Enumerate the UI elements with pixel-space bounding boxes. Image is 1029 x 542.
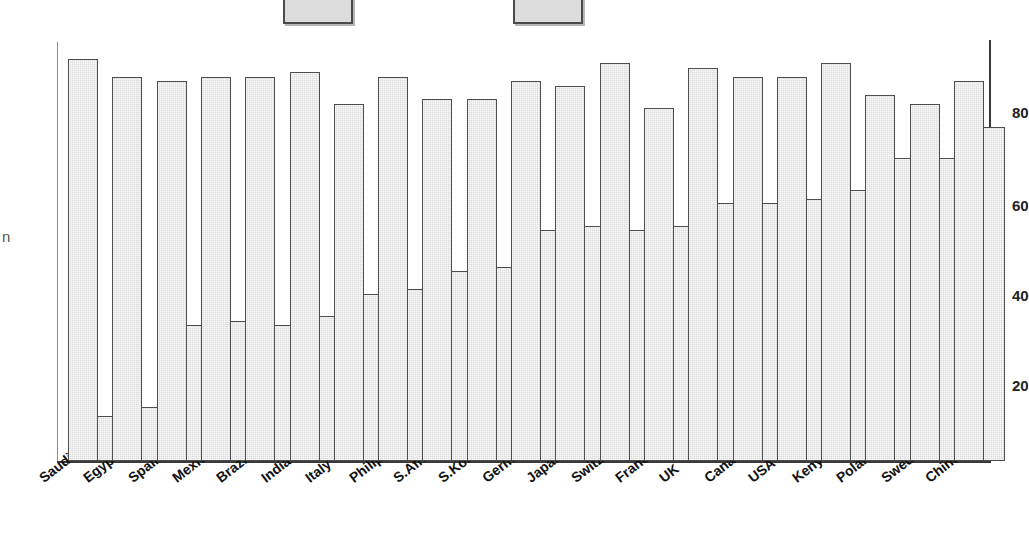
bar-men-brazil — [245, 77, 275, 461]
bar-men-italy — [334, 104, 364, 461]
bar-men-usa — [777, 77, 807, 461]
bar-men-poland — [865, 95, 895, 461]
bar-men-china — [954, 81, 984, 461]
bar-men-canada — [733, 77, 763, 461]
bar-men-switzerland — [600, 63, 630, 461]
bar-men-india — [290, 72, 320, 461]
bar-men-kenya — [821, 63, 851, 461]
bar-men-s-korea — [467, 99, 497, 461]
bar-men-philippines — [378, 77, 408, 461]
bar-men-s-africa — [422, 99, 452, 461]
bar-men-japan — [555, 86, 585, 461]
bar-men-france — [644, 108, 674, 461]
bar-men-uk — [688, 68, 718, 461]
bar-men-saudi-arabia — [68, 59, 98, 461]
bar-men-sweden — [910, 104, 940, 461]
bar-men-germany — [511, 81, 541, 461]
bar-men-spain — [157, 81, 187, 461]
bar-men-egypt — [112, 77, 142, 461]
bar-men-mexico — [201, 77, 231, 461]
